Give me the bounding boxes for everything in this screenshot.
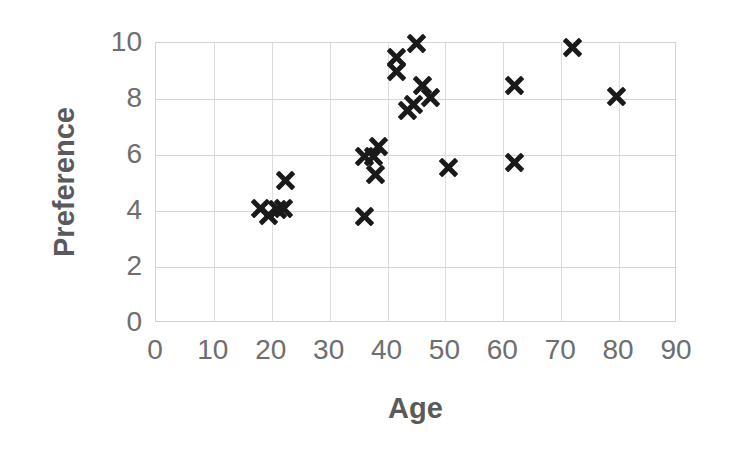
- data-point-marker: [257, 204, 280, 227]
- data-point-marker: [605, 85, 628, 108]
- data-point-marker: [503, 151, 526, 174]
- gridline-vertical: [445, 43, 446, 321]
- gridline-horizontal: [156, 267, 675, 268]
- data-point-marker: [353, 205, 376, 228]
- gridline-vertical: [214, 43, 215, 321]
- data-point-marker: [419, 86, 442, 109]
- y-tick-label: 10: [98, 28, 142, 56]
- gridline-horizontal: [156, 211, 675, 212]
- data-point-marker: [362, 145, 385, 168]
- plot-area: [155, 42, 676, 322]
- data-point-marker: [266, 198, 289, 221]
- data-point-marker: [396, 99, 419, 122]
- y-tick-label: 4: [98, 196, 142, 224]
- gridline-vertical: [272, 43, 273, 321]
- data-point-marker: [561, 36, 584, 59]
- gridline-vertical: [503, 43, 504, 321]
- data-point-marker: [274, 169, 297, 192]
- data-point-marker: [402, 93, 425, 116]
- gridline-vertical: [330, 43, 331, 321]
- x-axis-title: Age: [155, 392, 676, 425]
- data-point-marker: [411, 74, 434, 97]
- data-point-marker: [353, 145, 376, 168]
- x-axis-tick-labels: 0102030405060708090: [155, 334, 676, 370]
- data-point-marker: [437, 156, 460, 179]
- y-axis-tick-labels: 0246810: [86, 42, 142, 322]
- gridline-vertical: [619, 43, 620, 321]
- y-tick-label: 2: [98, 252, 142, 280]
- gridline-horizontal: [156, 155, 675, 156]
- y-tick-label: 6: [98, 140, 142, 168]
- data-point-marker: [405, 32, 428, 55]
- data-point-marker: [364, 163, 387, 186]
- gridline-horizontal: [156, 99, 675, 100]
- gridline-vertical: [561, 43, 562, 321]
- y-tick-label: 8: [98, 84, 142, 112]
- data-point-marker: [249, 197, 272, 220]
- y-axis-title: Preference: [44, 0, 84, 364]
- data-point-marker: [503, 74, 526, 97]
- scatter-chart: Preference 0246810 0102030405060708090 A…: [0, 0, 734, 454]
- x-tick-label: 90: [641, 334, 711, 366]
- data-point-marker: [272, 197, 295, 220]
- y-tick-label: 0: [98, 308, 142, 336]
- gridline-vertical: [388, 43, 389, 321]
